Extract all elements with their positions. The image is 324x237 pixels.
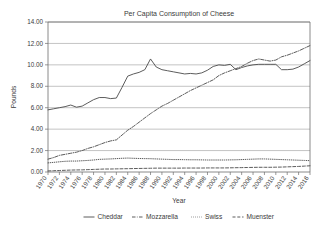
- y-tick-label: 2.00: [31, 147, 44, 154]
- legend-label-cheddar: Cheddar: [98, 213, 124, 220]
- x-tick-label: 1974: [57, 174, 71, 190]
- series-paths: [48, 46, 310, 171]
- x-tick-label: 1980: [91, 174, 105, 190]
- x-tick-label: 1996: [182, 174, 196, 190]
- y-axis-title: Pounds: [10, 85, 17, 108]
- y-tick-label: 6.00: [31, 104, 44, 111]
- chart-legend: CheddarMozzarellaSwissMuenster: [84, 213, 275, 220]
- y-tick-labels: 0.002.004.006.008.0010.0012.0014.00: [27, 18, 43, 175]
- x-tick-label: 1970: [34, 174, 48, 190]
- x-tick-label: 1984: [114, 174, 128, 190]
- x-tick-label: 2006: [239, 174, 253, 190]
- x-tick-label: 2002: [216, 174, 230, 190]
- series-line-swiss: [48, 158, 310, 163]
- series-line-muenster: [48, 166, 310, 171]
- x-tick-label: 1972: [45, 174, 59, 190]
- y-tick-label: 12.00: [27, 40, 43, 47]
- x-tick-label: 2014: [285, 174, 299, 190]
- x-tick-label: 2016: [296, 174, 310, 190]
- x-axis-title: Year: [172, 197, 186, 204]
- y-tick-label: 10.00: [27, 61, 43, 68]
- x-tick-label: 1998: [194, 174, 208, 190]
- y-tick-label: 4.00: [31, 125, 44, 132]
- x-axis-title-group: Year: [172, 197, 186, 204]
- x-tick-label: 1992: [159, 174, 173, 190]
- chart-title: Per Capita Consumption of Cheese: [124, 10, 234, 18]
- y-tick-label: 14.00: [27, 18, 43, 25]
- series-line-cheddar: [48, 59, 310, 110]
- x-tick-label: 1986: [125, 174, 139, 190]
- y-tick-label: 8.00: [31, 82, 44, 89]
- x-tick-label: 1976: [68, 174, 82, 190]
- cheese-consumption-chart: Per Capita Consumption of Cheese 0.002.0…: [0, 0, 324, 237]
- x-tick-label: 1990: [148, 174, 162, 190]
- legend-label-mozzarella: Mozzarella: [146, 213, 178, 220]
- x-tick-label: 1988: [137, 174, 151, 190]
- x-tick-labels: 1970197219741976197819801982198419861988…: [34, 174, 310, 190]
- x-tick-label: 1982: [102, 174, 116, 190]
- legend-label-swiss: Swiss: [205, 213, 223, 220]
- x-tick-label: 2012: [273, 174, 287, 190]
- x-tick-label: 2010: [262, 174, 276, 190]
- x-tick-label: 2004: [228, 174, 242, 190]
- y-tick-marks: [45, 22, 48, 172]
- gridlines: [48, 22, 310, 151]
- chart-title-group: Per Capita Consumption of Cheese: [124, 10, 234, 18]
- y-tick-label: 0.00: [31, 168, 44, 175]
- x-tick-label: 1978: [80, 174, 94, 190]
- chart-canvas: Per Capita Consumption of Cheese 0.002.0…: [0, 0, 324, 237]
- x-tick-label: 2000: [205, 174, 219, 190]
- x-tick-label: 1994: [171, 174, 185, 190]
- x-tick-label: 2008: [250, 174, 264, 190]
- legend-label-muenster: Muenster: [247, 213, 275, 220]
- series-line-mozzarella: [48, 46, 310, 160]
- y-axis-title-group: Pounds: [10, 85, 17, 108]
